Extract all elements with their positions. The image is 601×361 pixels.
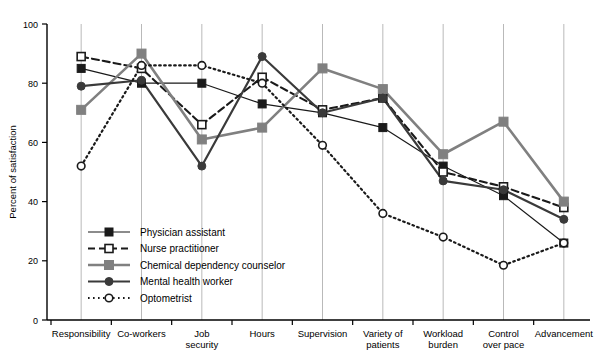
series-3-point-2 bbox=[198, 162, 206, 170]
chart-figure: 020406080100Percent of satisfactionRespo… bbox=[0, 0, 601, 361]
series-2-point-7 bbox=[499, 117, 508, 126]
legend-marker-3 bbox=[105, 278, 113, 286]
y-tick-label-60: 60 bbox=[28, 138, 38, 148]
legend-marker-1 bbox=[105, 245, 113, 253]
y-tick-label-80: 80 bbox=[28, 79, 38, 89]
x-axis-label-1: Co-workers bbox=[117, 328, 166, 339]
x-axis-label-7: Control bbox=[488, 328, 519, 339]
series-2-point-8 bbox=[559, 197, 568, 206]
y-axis-title: Percent of satisfaction bbox=[7, 125, 18, 218]
line-chart: 020406080100Percent of satisfactionRespo… bbox=[0, 0, 601, 361]
series-4-point-8 bbox=[560, 239, 568, 247]
series-3-point-5 bbox=[379, 94, 387, 102]
legend-marker-0 bbox=[105, 228, 113, 236]
series-2-point-6 bbox=[439, 150, 448, 159]
legend-marker-4 bbox=[105, 294, 113, 302]
series-4-point-2 bbox=[198, 62, 206, 70]
series-4-point-6 bbox=[439, 233, 447, 241]
x-axis-label-8: Advancement bbox=[535, 328, 593, 339]
series-3-point-4 bbox=[319, 109, 327, 117]
series-1-point-0 bbox=[77, 53, 85, 61]
series-1-point-6 bbox=[439, 168, 447, 176]
x-axis-label-0: Responsibility bbox=[52, 328, 111, 339]
x-axis-label-3: Hours bbox=[249, 328, 275, 339]
series-2-point-5 bbox=[378, 85, 387, 94]
legend-label-4: Optometrist bbox=[140, 293, 192, 304]
x-axis-label-5: patients bbox=[366, 339, 400, 350]
series-4-point-1 bbox=[138, 62, 146, 70]
legend-marker-2 bbox=[105, 261, 114, 270]
series-2-point-3 bbox=[258, 123, 267, 132]
series-3-point-6 bbox=[439, 177, 447, 185]
series-2-point-2 bbox=[197, 135, 206, 144]
series-1-point-2 bbox=[198, 121, 206, 129]
legend-label-1: Nurse practitioner bbox=[140, 243, 220, 254]
series-4-point-0 bbox=[77, 162, 85, 170]
series-4-point-5 bbox=[379, 210, 387, 218]
series-3-point-3 bbox=[258, 53, 266, 61]
y-tick-label-0: 0 bbox=[33, 316, 38, 326]
series-4-point-4 bbox=[319, 142, 327, 150]
series-3-point-1 bbox=[138, 76, 146, 84]
x-axis-label-6: Workload bbox=[423, 328, 463, 339]
legend-label-2: Chemical dependency counselor bbox=[140, 260, 286, 271]
x-axis-label-7: over pace bbox=[483, 339, 525, 350]
series-3-point-0 bbox=[77, 82, 85, 90]
series-3-point-8 bbox=[560, 215, 568, 223]
legend-label-0: Physician assistant bbox=[140, 227, 225, 238]
series-2-point-4 bbox=[318, 64, 327, 73]
series-0-point-5 bbox=[379, 124, 387, 132]
x-axis-label-6: burden bbox=[428, 339, 458, 350]
x-axis-label-5: Variety of bbox=[363, 328, 403, 339]
y-tick-label-20: 20 bbox=[28, 256, 38, 266]
series-2-point-1 bbox=[137, 49, 146, 58]
x-axis-label-2: security bbox=[185, 339, 218, 350]
series-4-point-3 bbox=[258, 79, 266, 87]
series-0-point-2 bbox=[198, 79, 206, 87]
y-tick-label-100: 100 bbox=[23, 20, 38, 30]
series-0-point-0 bbox=[77, 64, 85, 72]
series-0-point-3 bbox=[258, 100, 266, 108]
x-axis-label-4: Supervision bbox=[298, 328, 348, 339]
series-3-point-7 bbox=[500, 186, 508, 194]
series-2-point-0 bbox=[77, 105, 86, 114]
series-4-point-7 bbox=[500, 261, 508, 269]
x-axis-label-2: Job bbox=[194, 328, 209, 339]
legend-label-3: Mental health worker bbox=[140, 276, 233, 287]
y-tick-label-40: 40 bbox=[28, 197, 38, 207]
